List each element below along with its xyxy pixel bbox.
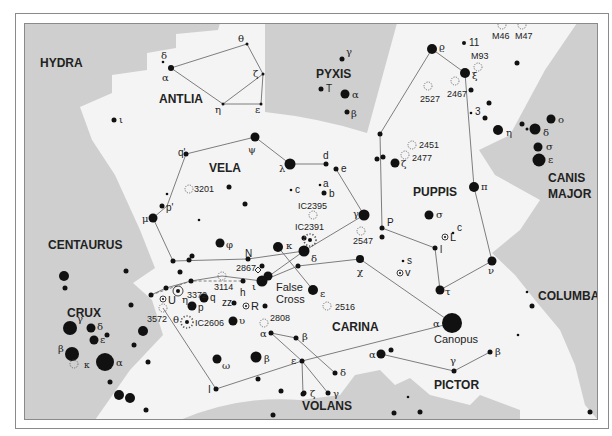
constellation-label-pictor: PICTOR bbox=[434, 378, 479, 392]
star-icon bbox=[112, 118, 117, 123]
star-label: ε bbox=[320, 288, 325, 299]
star-label: ε bbox=[255, 104, 260, 115]
star-icon bbox=[138, 326, 148, 336]
star-label: α bbox=[433, 318, 440, 329]
star-label: δ bbox=[97, 321, 103, 332]
star-icon bbox=[108, 380, 113, 385]
star-icon bbox=[302, 391, 307, 396]
constellation-label-crux: CRUX bbox=[67, 306, 101, 320]
star-icon bbox=[340, 57, 345, 62]
star-icon bbox=[530, 304, 535, 309]
star-label: q' bbox=[178, 147, 186, 158]
star-label: zz bbox=[222, 297, 232, 308]
star-icon bbox=[487, 101, 492, 106]
star-icon bbox=[378, 132, 383, 137]
star-icon bbox=[427, 44, 437, 54]
star-icon bbox=[273, 242, 283, 252]
star-label: 3 bbox=[475, 106, 481, 117]
star-icon bbox=[187, 258, 192, 263]
constellation-label-antlia: ANTLIA bbox=[159, 92, 203, 106]
star-icon bbox=[251, 352, 262, 363]
star-icon bbox=[124, 269, 129, 274]
star-label: 11 bbox=[469, 37, 480, 48]
star-icon bbox=[263, 304, 268, 309]
star-icon bbox=[149, 214, 158, 223]
constellation-label-centaurus: CENTAURUS bbox=[48, 238, 122, 252]
star-icon bbox=[87, 324, 96, 333]
star-icon bbox=[534, 143, 543, 152]
star-icon bbox=[462, 41, 466, 45]
star-label: γ bbox=[450, 355, 456, 366]
star-icon bbox=[381, 155, 386, 160]
star-icon bbox=[547, 115, 556, 124]
star-label: μ bbox=[142, 213, 149, 224]
star-icon bbox=[296, 264, 301, 269]
asterism-label-canopus: Canopus bbox=[434, 333, 479, 345]
star-icon bbox=[294, 336, 299, 341]
star-icon bbox=[178, 270, 183, 275]
star-icon bbox=[132, 343, 137, 348]
star-label: ξ bbox=[472, 70, 478, 81]
constellation-label-volans: VOLANS bbox=[302, 399, 352, 413]
star-label: l bbox=[440, 244, 442, 255]
star-icon bbox=[260, 264, 265, 269]
star-label: η bbox=[182, 294, 188, 305]
star-label: b bbox=[329, 188, 335, 199]
star-icon bbox=[334, 167, 339, 172]
nebula-label: 2867 bbox=[236, 263, 256, 273]
star-icon bbox=[460, 68, 470, 78]
star-icon bbox=[216, 239, 225, 248]
star-icon bbox=[389, 348, 394, 353]
star-icon bbox=[402, 260, 405, 263]
deep-sky-label: 2527 bbox=[420, 94, 440, 104]
star-icon bbox=[324, 162, 329, 167]
star-icon bbox=[189, 279, 194, 284]
star-icon bbox=[300, 359, 305, 364]
star-icon bbox=[190, 254, 195, 259]
star-icon bbox=[436, 286, 445, 295]
star-label: π bbox=[481, 181, 488, 192]
star-icon bbox=[326, 391, 331, 396]
star-label: η bbox=[506, 127, 512, 138]
deep-sky-label: κ bbox=[84, 360, 90, 370]
star-label: α bbox=[260, 328, 267, 339]
star-icon bbox=[251, 133, 260, 142]
variable-star-core-icon bbox=[399, 272, 401, 274]
star-icon bbox=[377, 350, 386, 359]
variable-star-core-icon bbox=[444, 236, 446, 238]
star-icon bbox=[105, 333, 110, 338]
star-label: γ bbox=[333, 388, 339, 399]
star-label: N bbox=[245, 248, 252, 259]
star-icon bbox=[149, 293, 154, 298]
constellation-label-puppis: PUPPIS bbox=[413, 185, 457, 199]
star-icon bbox=[63, 286, 68, 291]
constellation-label-hydra: HYDRA bbox=[40, 56, 83, 70]
star-icon bbox=[299, 246, 310, 257]
star-label: σ bbox=[436, 209, 443, 220]
deep-sky-label: 3572 bbox=[147, 314, 167, 324]
star-icon bbox=[279, 389, 284, 394]
star-label: q bbox=[210, 292, 216, 303]
star-label: ϱ bbox=[439, 41, 445, 52]
star-icon bbox=[214, 387, 219, 392]
star-label: d bbox=[323, 150, 329, 161]
star-label: ζ bbox=[253, 68, 259, 79]
star-label: γ bbox=[346, 46, 352, 57]
star-label: β bbox=[264, 353, 270, 364]
deep-sky-label: 2516 bbox=[335, 302, 355, 312]
star-icon bbox=[129, 303, 134, 308]
constellation-label-pyxis: PYXIS bbox=[316, 67, 351, 81]
star-icon bbox=[517, 334, 520, 337]
star-label: ζ bbox=[401, 158, 407, 169]
star-icon bbox=[125, 393, 135, 403]
deep-sky-label: M46 bbox=[492, 31, 510, 41]
star-label: ο bbox=[558, 114, 564, 125]
star-icon bbox=[359, 210, 370, 221]
star-icon bbox=[380, 235, 385, 240]
star-icon bbox=[493, 125, 503, 135]
star-label: δ bbox=[161, 50, 167, 61]
deep-sky-label: 2477 bbox=[412, 153, 432, 163]
star-icon bbox=[380, 226, 385, 231]
star-icon bbox=[227, 185, 232, 190]
star-label: δ bbox=[311, 253, 317, 264]
